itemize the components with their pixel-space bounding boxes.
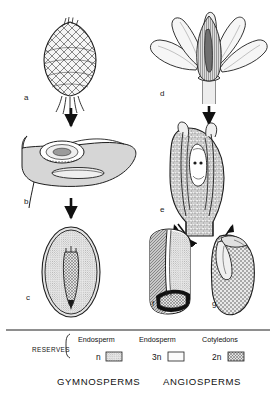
legend-row-label: RESERVES	[32, 346, 70, 353]
panel-label-d: d	[160, 89, 164, 98]
legend-swatch-stippled	[106, 352, 122, 361]
embryo-sac	[189, 144, 206, 186]
seed-development-diagram: a b c	[0, 0, 276, 401]
scale-wing	[52, 168, 104, 179]
panel-label-c: c	[26, 293, 30, 302]
legend-tissue-3: Cotyledons	[202, 335, 238, 344]
ovule-nucellus	[53, 148, 71, 156]
legend-tissue-1: Endosperm	[78, 335, 115, 344]
panel-label-a: a	[24, 93, 29, 102]
legend-swatch-crosshatch	[228, 352, 244, 361]
legend-swatch-plain	[168, 352, 184, 361]
legend-ploidy-2: 3n	[152, 352, 162, 362]
panel-label-b: b	[24, 197, 29, 206]
group-label-angiosperms: ANGIOSPERMS	[163, 376, 241, 387]
legend-ploidy-1: n	[96, 352, 101, 362]
panel-label-g: g	[212, 299, 216, 308]
polar-nucleus-right	[199, 161, 202, 164]
polar-nucleus-left	[193, 161, 196, 164]
legend-tissue-2: Endosperm	[139, 335, 176, 344]
panel-label-e: e	[160, 205, 165, 214]
legend-ploidy-3: 2n	[212, 352, 222, 362]
pedicel	[203, 80, 215, 104]
grain-embryo	[160, 293, 186, 308]
panel-f-endospermic-seed: f	[150, 229, 190, 314]
group-label-gymnosperms: GYMNOSPERMS	[57, 376, 140, 387]
